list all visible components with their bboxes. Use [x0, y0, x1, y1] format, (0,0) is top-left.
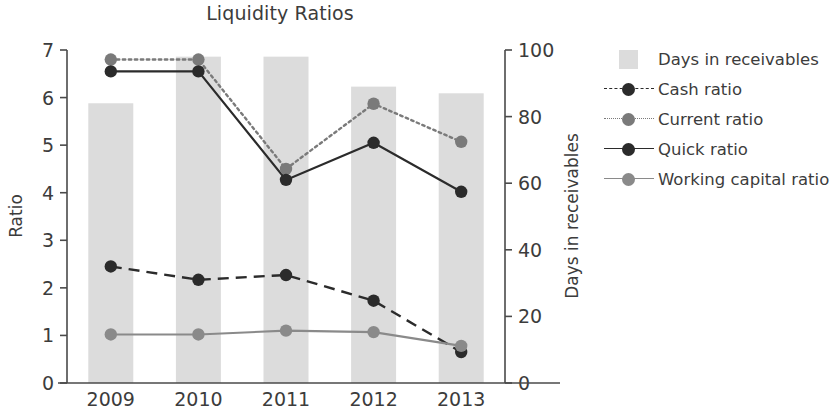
data-point [280, 269, 292, 281]
y2-tick-label: 20 [518, 305, 542, 327]
data-point [367, 295, 379, 307]
data-point [192, 65, 204, 77]
dashed-line-marker-icon [600, 76, 658, 102]
legend-item[interactable]: Days in receivables [600, 44, 835, 74]
data-point [105, 53, 117, 65]
data-point [367, 98, 379, 110]
legend-item[interactable]: Current ratio [600, 104, 835, 134]
bar-2009 [88, 103, 133, 383]
y-tick-label: 6 [42, 87, 54, 109]
legend-item[interactable]: Cash ratio [600, 74, 835, 104]
x-axis: 20092010201120122013 [58, 383, 560, 410]
data-point [280, 174, 292, 186]
legend-label: Cash ratio [658, 80, 742, 99]
data-point [192, 328, 204, 340]
y-tick-label: 5 [42, 134, 54, 156]
data-point [192, 274, 204, 286]
legend-item[interactable]: Working capital ratio [600, 164, 835, 194]
solid-line-marker-icon [600, 166, 658, 192]
y-tick-label: 7 [42, 39, 54, 61]
y-tick-label: 2 [42, 277, 54, 299]
chart-legend: Days in receivablesCash ratioCurrent rat… [600, 44, 835, 194]
dotted-line-marker-icon [600, 106, 658, 132]
y-axis-right: 020406080100 [505, 39, 554, 394]
y-axis-left: 01234567 [42, 39, 67, 394]
y2-tick-label: 100 [518, 39, 554, 61]
solid-line-marker-icon [600, 136, 658, 162]
y-tick-label: 3 [42, 229, 54, 251]
legend-label: Current ratio [658, 110, 763, 129]
legend-label: Quick ratio [658, 140, 748, 159]
data-point [455, 186, 467, 198]
y-axis-right-label: Days in receivables [562, 133, 582, 299]
y-tick-label: 0 [42, 372, 54, 394]
bar-swatch-icon [600, 46, 658, 72]
data-point [455, 340, 467, 352]
x-tick-label-2011: 2011 [262, 388, 310, 410]
y2-tick-label: 80 [518, 106, 542, 128]
data-point [192, 53, 204, 65]
y-tick-label: 1 [42, 324, 54, 346]
legend-label: Working capital ratio [658, 170, 829, 189]
y2-tick-label: 60 [518, 172, 542, 194]
data-point [280, 324, 292, 336]
x-tick-label-2012: 2012 [349, 388, 397, 410]
data-point [105, 328, 117, 340]
data-point [367, 137, 379, 149]
x-tick-label-2009: 2009 [87, 388, 135, 410]
data-point [280, 163, 292, 175]
data-point [105, 65, 117, 77]
x-tick-label-2013: 2013 [437, 388, 485, 410]
y2-tick-label: 40 [518, 239, 542, 261]
chart-figure: Liquidity Ratios 01234567 020406080100 2… [0, 0, 835, 413]
legend-item[interactable]: Quick ratio [600, 134, 835, 164]
bar-2012 [351, 87, 396, 383]
x-tick-label-2010: 2010 [174, 388, 222, 410]
y-tick-label: 4 [42, 182, 54, 204]
y-axis-left-label: Ratio [6, 194, 26, 238]
data-point [105, 260, 117, 272]
legend-label: Days in receivables [658, 50, 819, 69]
data-point [455, 136, 467, 148]
data-point [367, 326, 379, 338]
